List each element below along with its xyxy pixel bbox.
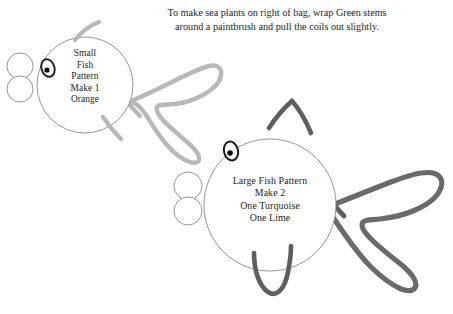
instruction-line-1: To make sea plants on right of bag, wrap… [108,6,446,20]
large-fish-eye-pupil [227,150,233,156]
pattern-diagram-canvas: To make sea plants on right of bag, wrap… [0,0,453,314]
instruction-line-2: around a paintbrush and pull the coils o… [108,20,446,34]
instruction-header: To make sea plants on right of bag, wrap… [108,6,446,34]
small-fish-bubble-upper [7,53,33,79]
large-fish-top-fin-left [269,101,292,128]
large-fish-top-fin-right [292,101,311,133]
small-fish-label: Small Fish Pattern Make 1 Orange [44,48,126,106]
small-fish-bubble-lower [7,76,33,102]
large-fish-label: Large Fish Pattern Make 2 One Turquoise … [196,175,344,224]
